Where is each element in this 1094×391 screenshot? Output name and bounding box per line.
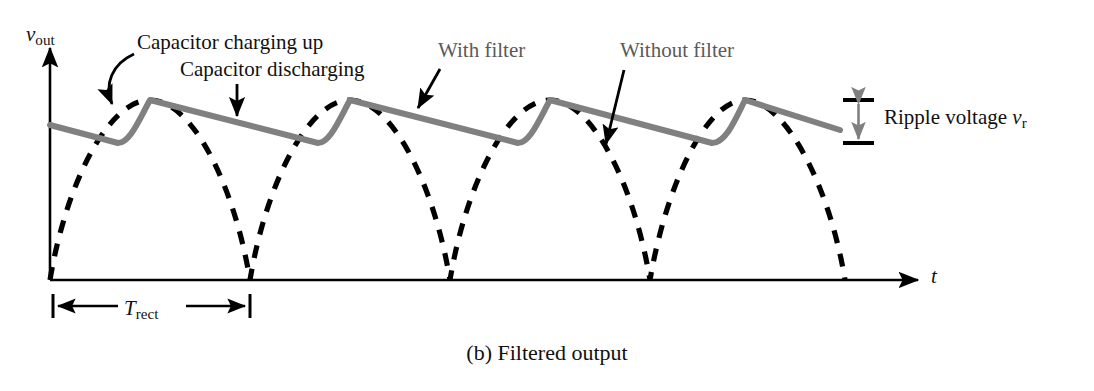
filtered-waveform-curve	[50, 100, 840, 143]
with-filter-arrow-icon	[418, 69, 440, 108]
annotation-capacitor-discharging: Capacitor discharging	[180, 57, 364, 82]
y-axis-label-main: v	[26, 22, 35, 46]
waveform-plot	[0, 0, 1094, 391]
y-axis-label: vout	[26, 22, 55, 47]
ripple-voltage-subscript: r	[1022, 115, 1027, 131]
period-label-main: T	[124, 296, 136, 320]
annotation-with-filter: With filter	[438, 38, 525, 63]
ripple-voltage-text: Ripple voltage	[884, 105, 1012, 129]
x-axis-label: t	[931, 264, 937, 289]
annotation-capacitor-charging: Capacitor charging up	[137, 30, 323, 55]
filtered-output-figure: vout t Capacitor charging up Capacitor d…	[0, 0, 1094, 391]
y-axis-label-sub: out	[35, 32, 54, 48]
charging-arrow-icon	[109, 54, 134, 104]
annotation-without-filter: Without filter	[620, 38, 734, 63]
period-label: Trect	[124, 296, 158, 321]
without-filter-arrow-icon	[606, 70, 624, 144]
period-label-sub: rect	[136, 306, 159, 322]
annotation-ripple-voltage: Ripple voltage vr	[884, 105, 1027, 130]
figure-caption: (b) Filtered output	[0, 340, 1094, 366]
ripple-voltage-symbol: v	[1012, 105, 1021, 129]
